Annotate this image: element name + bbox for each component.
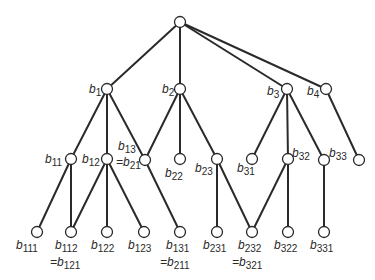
label-b32: b32 [292,146,310,162]
label-b123: b123 [128,238,152,254]
label-b4: b4 [307,84,320,100]
label-b11: b11 [45,152,63,168]
node-b111 [32,227,43,238]
node-b122 [102,227,113,238]
edge-b3-b32 [287,89,288,159]
node-b33 [319,155,330,166]
edge-b12-b112 [71,159,107,232]
tree-diagram-svg: b1b2b3b4b11b12b13=b21b22b23b31b32b33b111… [0,0,375,280]
label-b112: b112 [55,238,78,254]
node-b13 [140,155,151,166]
node-b131 [175,227,186,238]
node-b112 [66,227,77,238]
node-b31 [247,154,258,165]
label-b2: b2 [162,82,175,98]
edge-root-b1 [107,22,180,89]
edge-b32-b232 [252,159,288,232]
node-b11 [66,154,77,165]
node-b1 [102,84,113,95]
edge-b2-b13 [145,89,180,160]
label-b122: b122 [91,238,115,254]
edge-root-b3 [180,22,287,89]
node-b231 [212,227,223,238]
node-b23 [212,154,223,165]
node-b123 [139,227,150,238]
label-b331: b331 [310,238,334,254]
edge-root-b4 [180,22,326,89]
label-b3: b3 [267,84,280,100]
label-b231: b231 [203,238,227,254]
node-b331 [319,227,330,238]
node-b322 [283,227,294,238]
node-b4 [321,84,332,95]
node-b3 [282,84,293,95]
label-b131: b131 [166,238,190,254]
label-b23: b23 [195,161,213,177]
label-b13: b13 [118,139,136,155]
edges-group [37,22,359,232]
edge-b3-b31 [252,89,287,159]
label-b22: b22 [165,166,183,182]
alias-label-b131: =b211 [160,255,190,271]
node-b12 [102,154,113,165]
edge-b1-b11 [71,89,107,159]
alias-label-b112: =b121 [50,255,81,271]
label-b322: b322 [274,238,298,254]
node-b41 [354,155,365,166]
nodes-group [32,17,365,238]
label-b33: b33 [329,146,347,162]
alias-label-b13: =b21 [116,155,141,171]
label-b232: b232 [238,238,262,254]
label-b1: b1 [89,82,102,98]
edge-b11-b111 [37,159,71,232]
tree-diagram: b1b2b3b4b11b12b13=b21b22b23b31b32b33b111… [0,0,375,280]
label-b111: b111 [16,238,38,254]
node-root [175,17,186,28]
node-b2 [175,84,186,95]
label-b12: b12 [82,152,100,168]
node-b232 [247,227,258,238]
alias-label-b232: =b321 [232,255,263,271]
node-b22 [175,154,186,165]
edge-b2-b23 [180,89,217,159]
